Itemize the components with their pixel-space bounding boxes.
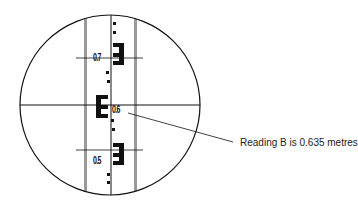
- staff-label-0-7: 0.7: [93, 52, 101, 63]
- staff-label-0-5: 0.5: [93, 155, 101, 166]
- reading-annotation: Reading B is 0.635 metres: [240, 137, 358, 148]
- staff-label-0-6: 0.6: [112, 104, 120, 115]
- leader-line: [128, 113, 233, 142]
